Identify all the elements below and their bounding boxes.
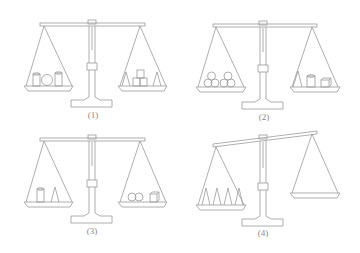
cylinder-icon — [37, 189, 44, 202]
right-pan — [290, 193, 340, 198]
sphere-icon — [224, 72, 232, 80]
panel-label-2: (2) — [249, 112, 279, 122]
left-pan — [196, 205, 246, 210]
base — [242, 216, 283, 226]
balance-scale-1 — [24, 20, 167, 107]
beam — [40, 138, 145, 141]
balance-scales-diagram — [0, 0, 360, 253]
left-pan — [24, 86, 73, 91]
column-collar — [87, 180, 97, 187]
left-pan — [24, 202, 73, 207]
sphere-icon — [42, 75, 53, 86]
cube-icon — [137, 70, 144, 78]
balance-scale-3 — [24, 135, 167, 223]
base — [71, 97, 112, 107]
right-pan — [118, 86, 167, 91]
right-pan — [290, 87, 340, 92]
cone-icon — [235, 188, 243, 205]
cube-icon — [150, 194, 157, 202]
right-pan-items — [122, 70, 161, 86]
cube-icon — [321, 80, 329, 87]
left-pan — [196, 87, 246, 92]
balance-scale-4 — [196, 131, 340, 226]
cone-icon — [213, 188, 221, 205]
cylinder-icon — [33, 74, 40, 86]
column-collar — [258, 183, 268, 190]
cone-icon — [153, 72, 161, 86]
panel-label-1: (1) — [78, 110, 108, 120]
right-pan-items — [293, 71, 331, 87]
cube-icon — [140, 78, 147, 86]
base — [71, 213, 112, 223]
cone-icon — [202, 188, 210, 205]
cylinder-icon — [55, 73, 62, 86]
cone-icon — [122, 72, 130, 86]
left-pan-items — [204, 72, 235, 87]
cone-icon — [51, 187, 59, 202]
panel-label-3: (3) — [77, 226, 107, 236]
balance-scale-2 — [196, 21, 340, 109]
beam — [213, 24, 317, 27]
left-pan-items — [33, 72, 62, 86]
column-collar — [87, 63, 97, 70]
column-collar — [258, 65, 268, 72]
panel-label-4: (4) — [248, 228, 278, 238]
base — [242, 99, 283, 109]
left-pan-items — [37, 187, 59, 202]
cube-icon — [133, 78, 140, 86]
sphere-icon — [208, 72, 216, 80]
cone-icon — [224, 188, 232, 205]
beam — [40, 23, 145, 26]
right-pan-items — [128, 192, 159, 202]
right-pan — [118, 202, 167, 207]
